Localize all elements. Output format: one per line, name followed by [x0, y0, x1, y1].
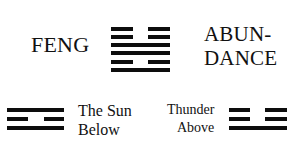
upper-trigram-figure [229, 108, 287, 130]
lower-trigram-caption-line2: Below [78, 122, 120, 138]
upper-trigram-caption-line1: Thunder [167, 103, 214, 117]
hexagram-meaning-line2: DANCE [204, 48, 277, 69]
upper-trigram-caption-line2: Above [177, 121, 214, 135]
hexagram-line-3 [111, 43, 170, 47]
upper-trigram-line-3 [229, 126, 287, 130]
upper-trigram-line-1-right [265, 108, 287, 112]
hexagram-line-1-right [148, 27, 170, 31]
upper-trigram-line-2-right [265, 117, 287, 121]
lower-trigram-line-2-left [7, 117, 28, 121]
hexagram-line-4 [111, 51, 170, 55]
hexagram-figure [111, 27, 170, 73]
hexagram-name: FENG [31, 34, 89, 56]
lower-trigram-line-1 [7, 108, 64, 112]
hexagram-line-1-left [111, 27, 133, 31]
hexagram-line-2-right [148, 35, 170, 39]
hexagram-line-5-left [111, 60, 133, 64]
lower-trigram-caption-line1: The Sun [78, 103, 132, 119]
hexagram-line-5-right [148, 60, 170, 64]
lower-trigram-line-3 [7, 126, 64, 130]
hexagram-line-6 [111, 68, 170, 72]
hexagram-line-2-left [111, 35, 133, 39]
upper-trigram-line-1-left [229, 108, 250, 112]
hexagram-meaning-line1: ABUN- [204, 24, 272, 45]
upper-trigram-line-2-left [229, 117, 250, 121]
lower-trigram-line-2-right [44, 117, 64, 121]
lower-trigram-figure [7, 108, 64, 130]
